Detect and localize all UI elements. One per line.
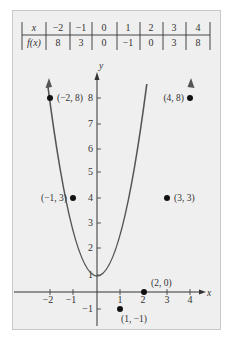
point-label: (1, −1) <box>121 314 147 325</box>
y-axis-arrow-icon <box>95 72 100 80</box>
table-x-cell: −1 <box>76 22 87 33</box>
table-x-cell: 1 <box>126 22 131 33</box>
table-header-x: x <box>31 22 37 33</box>
point-label: (4, 8) <box>163 93 184 104</box>
point-label: (2, 0) <box>151 278 172 289</box>
y-tick-label: 8 <box>88 92 93 103</box>
table-fx-cell: 0 <box>102 37 107 48</box>
point-label: (−1, 3) <box>41 193 67 204</box>
table-header-fx: f(x) <box>27 37 42 49</box>
table-x-cell: 0 <box>102 22 107 33</box>
table-fx-cell: 8 <box>56 37 61 48</box>
parabola-curve <box>46 78 195 276</box>
y-tick-label: 6 <box>88 143 93 154</box>
table-x-cell: 4 <box>196 22 201 33</box>
table-fx-cell: 0 <box>149 37 154 48</box>
table-fx-cell: 8 <box>196 37 201 48</box>
table-fx-cell: 3 <box>172 37 177 48</box>
table-fx-cell: 3 <box>79 37 84 48</box>
y-tick-label: 7 <box>88 118 93 129</box>
point-marker <box>70 195 76 201</box>
point-label: (−2, 8) <box>57 93 83 104</box>
x-tick-label: 4 <box>188 294 193 305</box>
y-tick-label: 2 <box>88 242 93 253</box>
y-tick-label: −1 <box>82 303 93 314</box>
table-x-cell: 2 <box>149 22 154 33</box>
table-fx-cell: −1 <box>123 37 134 48</box>
point-label: (3, 3) <box>174 193 195 204</box>
x-tick-label: 3 <box>165 294 170 305</box>
point-marker <box>117 306 123 312</box>
y-axis-label: y <box>98 61 104 71</box>
chart-canvas: x f(x) −2 −1 0 1 2 3 4 8 3 0 −1 0 3 8 y … <box>0 0 232 341</box>
table-x-cell: 3 <box>172 22 177 33</box>
x-axis-label: x <box>206 288 212 298</box>
value-table: x f(x) −2 −1 0 1 2 3 4 8 3 0 −1 0 3 8 <box>22 22 210 50</box>
y-tick-label: 3 <box>88 217 93 228</box>
x-tick-label: 1 <box>118 294 123 305</box>
table-x-cell: −2 <box>53 22 64 33</box>
x-tick-label: 2 <box>141 294 146 305</box>
point-marker <box>141 289 147 295</box>
y-tick-label: 4 <box>88 192 93 203</box>
point-marker <box>47 95 53 101</box>
x-tick-label: −1 <box>66 294 77 305</box>
point-marker <box>164 195 170 201</box>
y-tick-label: 5 <box>88 166 93 177</box>
x-axis-arrow-icon <box>199 290 206 295</box>
curve-arrow-left-icon <box>46 78 53 88</box>
x-tick-label: −2 <box>43 294 54 305</box>
point-marker <box>187 95 193 101</box>
curve-arrow-right-icon <box>188 78 195 88</box>
